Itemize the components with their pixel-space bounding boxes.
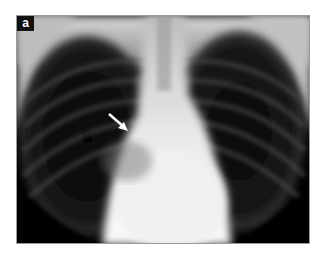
panel-label: a <box>17 16 34 31</box>
chest-xray-image <box>17 16 310 244</box>
arrow-down-right-icon <box>107 112 131 134</box>
xray-image-frame: a <box>16 15 310 244</box>
